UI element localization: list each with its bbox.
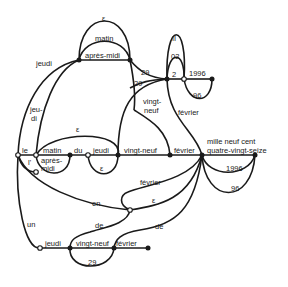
edge-96-right bbox=[202, 155, 255, 193]
label-midi: midi bbox=[41, 164, 55, 173]
node bbox=[68, 246, 73, 251]
label-apres-midi: après-midi bbox=[85, 51, 120, 60]
label-96: 96 bbox=[193, 91, 201, 100]
label-1996: 1996 bbox=[226, 164, 243, 173]
label-fevrier: février bbox=[178, 108, 199, 117]
label-vingt-neuf: vingt-neuf bbox=[76, 239, 110, 248]
label-jeudi: jeudi bbox=[35, 59, 52, 68]
label-vingt-neuf: vingt-neuf bbox=[124, 146, 158, 155]
label-jeu: jeu- bbox=[29, 105, 43, 114]
node bbox=[210, 77, 215, 82]
node bbox=[146, 246, 151, 251]
label-vingt: vingt- bbox=[143, 97, 162, 106]
label-29: 29 bbox=[134, 79, 142, 88]
label-96: 96 bbox=[231, 184, 239, 193]
automaton-diagram: ε matin après-midi jeudi jeu- di 29 29 v… bbox=[0, 0, 288, 287]
edge-jeudi-top bbox=[18, 60, 79, 155]
node-open bbox=[34, 170, 39, 175]
label-jeudi: jeudi bbox=[92, 146, 109, 155]
label-en: en bbox=[92, 199, 100, 208]
label-l-apos: l' bbox=[28, 158, 32, 167]
label-de: de bbox=[155, 222, 163, 231]
label-29: 29 bbox=[88, 258, 96, 267]
label-di: di bbox=[31, 114, 37, 123]
label-le: le bbox=[22, 146, 28, 155]
label-2: 2 bbox=[172, 70, 176, 79]
node bbox=[165, 77, 170, 82]
label-fevrier: février bbox=[140, 178, 161, 187]
node bbox=[128, 58, 133, 63]
label-matin: matin bbox=[43, 146, 61, 155]
label-eps: ε bbox=[76, 125, 80, 134]
node-open bbox=[128, 208, 133, 213]
label-02: 02 bbox=[171, 52, 179, 61]
label-eps: ε bbox=[100, 164, 104, 173]
label-neuf: neuf bbox=[144, 106, 160, 115]
node-open bbox=[38, 246, 43, 251]
edge-un bbox=[17, 155, 40, 248]
node-open bbox=[34, 153, 39, 158]
node-open bbox=[182, 77, 187, 82]
label-quatre-vingt-seize: quatre-vingt-seize bbox=[207, 146, 267, 155]
node bbox=[200, 153, 205, 158]
label-29: 29 bbox=[141, 68, 149, 77]
label-eps: ε bbox=[152, 196, 156, 205]
label-du: du bbox=[74, 146, 82, 155]
node bbox=[68, 153, 73, 158]
edge-en bbox=[18, 155, 130, 210]
label-matin: matin bbox=[95, 34, 113, 43]
node-open bbox=[86, 153, 91, 158]
label-1996: 1996 bbox=[189, 69, 206, 78]
node bbox=[168, 153, 173, 158]
node bbox=[77, 58, 82, 63]
node bbox=[116, 153, 121, 158]
edge-vingtneuf-down bbox=[118, 79, 167, 155]
label-fevrier: février bbox=[174, 146, 195, 155]
label-de: de bbox=[95, 221, 103, 230]
label-un: un bbox=[27, 220, 35, 229]
label-jeudi: jeudi bbox=[44, 239, 61, 248]
node-start bbox=[16, 153, 21, 158]
label-II: II bbox=[172, 34, 176, 43]
label-mille: mille neuf cent bbox=[207, 137, 256, 146]
label-fevrier: février bbox=[116, 239, 137, 248]
